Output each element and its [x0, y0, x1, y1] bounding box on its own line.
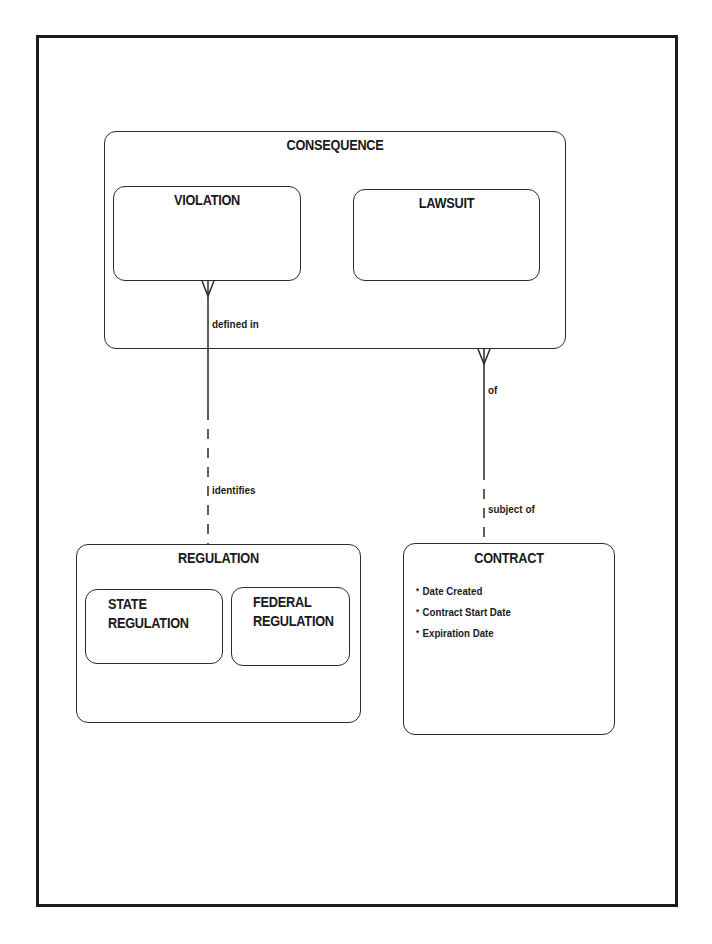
attribute-expiration-date: *Expiration Date	[416, 623, 511, 644]
entity-title: REGULATION	[98, 549, 339, 566]
entity-title: STATE REGULATION	[108, 594, 189, 632]
attribute-date-created: *Date Created	[416, 581, 511, 602]
entity-federal-regulation[interactable]: FEDERAL REGULATION	[231, 587, 350, 666]
entity-violation[interactable]: VIOLATION	[113, 186, 301, 281]
entity-state-regulation[interactable]: STATE REGULATION	[85, 589, 223, 664]
entity-title: CONTRACT	[420, 549, 599, 566]
relationship-label-of: of	[488, 384, 497, 396]
attribute-contract-start-date: *Contract Start Date	[416, 602, 511, 623]
entity-title: FEDERAL REGULATION	[253, 592, 334, 630]
entity-title: CONSEQUENCE	[140, 136, 531, 153]
entity-lawsuit[interactable]: LAWSUIT	[353, 189, 540, 281]
attribute-list: *Date Created *Contract Start Date *Expi…	[416, 581, 524, 644]
relationship-label-identifies: identifies	[212, 484, 255, 496]
entity-title: LAWSUIT	[368, 194, 525, 211]
entity-title: VIOLATION	[128, 191, 286, 208]
entity-contract[interactable]: CONTRACT *Date Created *Contract Start D…	[403, 543, 615, 735]
relationship-label-defined-in: defined in	[212, 318, 259, 330]
relationship-label-subject-of: subject of	[488, 503, 535, 515]
